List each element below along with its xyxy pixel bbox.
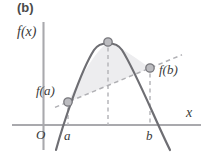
- value-label-f-of-b: f(b): [159, 63, 178, 76]
- marker-point-vertex: [104, 38, 112, 46]
- shaded-region: [68, 42, 150, 102]
- y-axis-label: f(x): [17, 25, 36, 39]
- tick-label-b: b: [146, 129, 153, 142]
- origin-label: O: [36, 128, 45, 141]
- marker-point-a: [64, 98, 72, 106]
- marker-point-b: [146, 64, 154, 72]
- figure-panel-b: (b) f(x) x O a b f(a) f(b): [0, 0, 209, 156]
- tick-label-a: a: [64, 129, 71, 142]
- value-label-f-of-a: f(a): [36, 84, 55, 97]
- panel-label: (b): [17, 1, 34, 14]
- x-axis-label: x: [186, 106, 192, 120]
